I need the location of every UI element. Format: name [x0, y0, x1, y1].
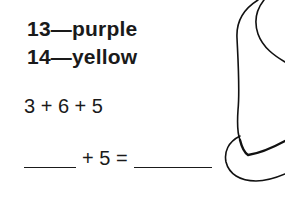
hat-outline-icon	[0, 0, 285, 199]
